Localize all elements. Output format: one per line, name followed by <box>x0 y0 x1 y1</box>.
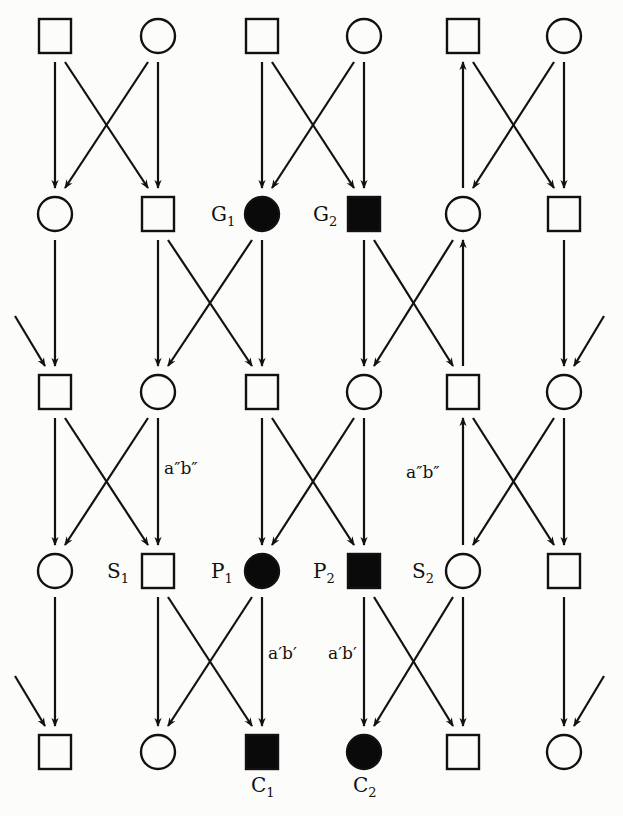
edges-layer <box>15 62 604 726</box>
node-label-g1: G1 <box>211 204 235 228</box>
pedigree-graph <box>0 0 623 816</box>
descent-arrow <box>15 316 45 366</box>
unaffected-female-node <box>141 375 175 409</box>
affected-male-node-g2 <box>348 197 380 231</box>
node-label-p2: P2 <box>313 561 335 585</box>
unaffected-male-node <box>447 19 479 53</box>
descent-arrow <box>15 676 45 726</box>
descent-arrow <box>574 676 604 726</box>
affected-female-node-g1 <box>245 197 279 231</box>
unaffected-male-node <box>447 735 479 769</box>
unaffected-female-node <box>347 19 381 53</box>
unaffected-male-node <box>246 375 278 409</box>
unaffected-male-node <box>142 197 174 231</box>
unaffected-female-node <box>141 735 175 769</box>
node-label-c1: C1 <box>251 775 275 799</box>
descent-arrow <box>574 316 604 366</box>
unaffected-female-node <box>547 19 581 53</box>
affected-male-node-c1 <box>246 735 278 769</box>
unaffected-male-node <box>548 197 580 231</box>
unaffected-female-node <box>141 19 175 53</box>
node-label-g2: G2 <box>313 204 337 228</box>
affected-female-node-c2 <box>347 735 381 769</box>
node-label-s2: S2 <box>412 561 434 585</box>
node-label-c2: C2 <box>353 775 377 799</box>
unaffected-female-node <box>446 197 480 231</box>
unaffected-male-node <box>548 554 580 588</box>
unaffected-male-node <box>39 735 71 769</box>
unaffected-male-node <box>246 19 278 53</box>
node-label-s1: S1 <box>107 561 129 585</box>
unaffected-female-node <box>347 375 381 409</box>
unaffected-female-node <box>547 375 581 409</box>
unaffected-female-node-s2 <box>446 554 480 588</box>
pedigree-diagram: G1G2S1P1P2S2C1C2a″b″a″b″a′b′a′b′ <box>0 0 623 816</box>
allele-annotation: a′b′ <box>328 645 357 662</box>
affected-female-node-p1 <box>245 554 279 588</box>
allele-annotation: a″b″ <box>406 464 440 481</box>
affected-male-node-p2 <box>348 554 380 588</box>
unaffected-male-node <box>39 19 71 53</box>
unaffected-male-node <box>447 375 479 409</box>
allele-annotation: a″b″ <box>164 460 198 477</box>
allele-annotation: a′b′ <box>268 645 297 662</box>
unaffected-male-node-s1 <box>142 554 174 588</box>
unaffected-male-node <box>39 375 71 409</box>
node-label-p1: P1 <box>211 561 233 585</box>
unaffected-female-node <box>38 197 72 231</box>
unaffected-female-node <box>38 554 72 588</box>
unaffected-female-node <box>547 735 581 769</box>
